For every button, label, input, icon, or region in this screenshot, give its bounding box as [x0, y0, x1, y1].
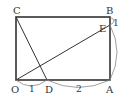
- length-OD: 1: [29, 84, 35, 94]
- label-E: E: [99, 23, 106, 34]
- label-B: B: [106, 5, 113, 16]
- length-DA: 2: [76, 84, 82, 94]
- arc-EA: [110, 25, 117, 80]
- rectangle-OABC: [16, 17, 110, 80]
- length-EB: 1: [113, 18, 119, 28]
- geometry-diagram: C B E O D A 1 2 1: [0, 0, 124, 97]
- label-A: A: [105, 84, 114, 95]
- label-D: D: [45, 84, 53, 95]
- label-O: O: [11, 84, 19, 95]
- label-C: C: [13, 5, 21, 16]
- segment-OE: [16, 25, 110, 80]
